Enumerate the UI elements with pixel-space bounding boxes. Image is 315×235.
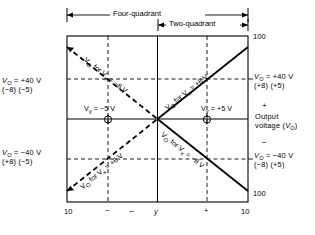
corner-label-bottom-right-equals: = — [266, 151, 271, 160]
x-axis-arrow-icon: ← — [128, 206, 136, 215]
marker0-sub: y — [89, 108, 92, 114]
marker0-equals: = — [94, 104, 98, 113]
output-axis-caption: Output voltage (VO) — [255, 112, 298, 131]
x-axis-left-label: 10 — [64, 207, 72, 216]
marker0-value: −5 V — [100, 104, 115, 113]
marker-label-negative-y: Vy = −5 V — [84, 104, 115, 114]
y-axis-bottom-label: 100 — [253, 189, 266, 198]
output-axis-caption-subscript: O — [290, 125, 295, 131]
output-axis-caption-prefix: voltage ( — [255, 121, 285, 130]
output-axis-plus-sign: + — [262, 101, 267, 110]
four-quadrant-span-label: Four-quadrant — [113, 9, 161, 18]
corner-label-top-right-subscript: O — [259, 76, 264, 82]
corner-label-bottom-right-factors: (−8) (+5) — [254, 160, 293, 169]
output-axis-caption-line1: Output — [255, 112, 298, 121]
x-axis-name-label: y — [154, 207, 158, 216]
two-quadrant-span-label: Two-quadrant — [169, 19, 215, 28]
corner-label-top-left-value: +40 V — [21, 76, 42, 85]
corner-label-top-left-factors: (−8) (−5) — [2, 85, 41, 94]
corner-label-top-left-equals: = — [14, 76, 19, 85]
marker-label-positive-y: Vy = +5 V — [201, 104, 232, 114]
marker1-value: +5 V — [217, 104, 232, 113]
output-axis-minus-sign: − — [262, 138, 267, 147]
corner-label-bottom-left-factors: (+8) (−5) — [2, 157, 41, 166]
corner-label-bottom-left: VO = −40 V (+8) (−5) — [2, 148, 41, 167]
marker1-equals: = — [211, 104, 215, 113]
corner-label-top-right-factors: (+8) (+5) — [254, 81, 293, 90]
y-axis-top-label: 100 — [253, 32, 266, 41]
corner-label-top-right-equals: = — [266, 72, 271, 81]
x-axis-plus-label: + — [204, 206, 208, 215]
corner-label-top-right-value: +40 V — [273, 72, 294, 81]
corner-label-bottom-left-equals: = — [14, 148, 19, 157]
corner-label-top-left-subscript: O — [7, 80, 12, 86]
marker1-sub: y — [206, 108, 209, 114]
corner-label-bottom-left-subscript: O — [7, 152, 12, 158]
output-axis-ticks — [248, 79, 253, 159]
figure-root: Four-quadrant Two-quadrant VO = +40 V (−… — [0, 0, 315, 235]
output-axis-caption-suffix: ) — [295, 121, 298, 130]
corner-label-bottom-left-value: −40 V — [21, 148, 42, 157]
corner-label-top-right: VO = +40 V (+8) (+5) — [254, 72, 293, 91]
x-axis-minus-label: − — [105, 206, 109, 215]
x-axis-right-label: 10 — [241, 207, 249, 216]
output-axis-caption-line2: voltage (VO) — [255, 121, 298, 130]
corner-label-top-left: VO = +40 V (−8) (−5) — [2, 76, 41, 95]
corner-label-bottom-right-value: −40 V — [273, 151, 294, 160]
corner-label-bottom-right-subscript: O — [259, 155, 264, 161]
corner-label-bottom-right: VO = −40 V (−8) (+5) — [254, 151, 293, 170]
